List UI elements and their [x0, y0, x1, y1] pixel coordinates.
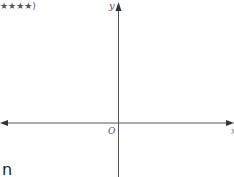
coordinate-plane — [0, 0, 234, 177]
y-axis-up-arrow-icon — [116, 2, 122, 11]
x-axis-label: x — [231, 126, 234, 136]
origin-label: O — [108, 126, 115, 136]
y-axis-label: y — [109, 0, 115, 11]
x-axis-left-arrow-icon — [0, 120, 8, 126]
text-fragment: n — [2, 160, 12, 177]
